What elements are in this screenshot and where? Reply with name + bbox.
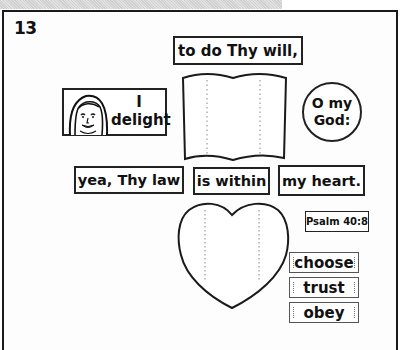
card-to-do-thy-will[interactable]: to do Thy will, [173,36,303,65]
card-text-delight: delight [111,111,167,129]
psalm-reference-text: Psalm 40:8 [306,216,368,227]
delight-text: I delight [111,93,167,129]
word-card-obey[interactable]: obey [289,302,359,323]
word-text: choose [294,254,353,272]
woman-face-icon [66,91,110,135]
card-i-delight[interactable]: I delight [62,88,167,136]
word-card-choose[interactable]: choose [289,252,359,273]
word-text: trust [303,279,344,297]
card-text: to do Thy will, [178,42,298,60]
lesson-number: 13 [14,18,37,38]
card-text-i: I [111,93,167,111]
psalm-reference-card: Psalm 40:8 [305,211,369,232]
heart-shape[interactable] [176,200,292,312]
card-text-o-my: O my [312,95,353,112]
card-text: is within [197,173,267,189]
card-my-heart[interactable]: my heart. [278,165,365,196]
word-card-trust[interactable]: trust [289,277,359,298]
card-yea-thy-law[interactable]: yea, Thy law [74,166,184,194]
card-is-within[interactable]: is within [193,167,270,195]
open-book-shape[interactable] [180,70,290,164]
top-gray-band [0,0,282,9]
card-o-my-god[interactable]: O my God: [302,82,362,142]
card-text: my heart. [282,173,361,189]
card-text-god: God: [312,112,353,129]
word-text: obey [304,304,345,322]
card-text: yea, Thy law [78,172,181,188]
